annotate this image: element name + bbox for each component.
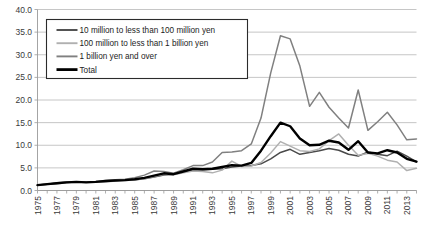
x-tick-label: 1991 [188, 196, 198, 215]
x-tick-label: 2009 [363, 196, 373, 215]
x-tick-label: 2013 [402, 196, 412, 215]
line-chart: 0.05.010.015.020.025.030.035.040.0 19751… [0, 0, 425, 227]
y-tick-label: 0.0 [20, 186, 32, 196]
x-tick-label: 2011 [382, 196, 392, 215]
y-tick-label: 30.0 [15, 50, 32, 60]
legend-label: 1 billion yen and over [80, 52, 158, 61]
y-tick-label: 35.0 [15, 27, 32, 37]
y-tick-label: 15.0 [15, 118, 32, 128]
x-tick-label: 1977 [52, 196, 62, 215]
x-tick-label: 2003 [305, 196, 315, 215]
x-tick-label: 2005 [324, 196, 334, 215]
x-tick-label: 1985 [130, 196, 140, 215]
series-line [38, 123, 417, 185]
x-tick-label: 1979 [71, 196, 81, 215]
x-tick-label: 1981 [91, 196, 101, 215]
x-tick-label: 1997 [246, 196, 256, 215]
legend-label: Total [80, 66, 97, 75]
x-tick-label: 1993 [207, 196, 217, 215]
x-tick-label: 1987 [149, 196, 159, 215]
y-tick-label: 25.0 [15, 72, 32, 82]
legend-label: 10 million to less than 100 million yen [80, 26, 216, 35]
legend-label: 100 million to less than 1 billion yen [80, 39, 209, 48]
x-axis-tick-labels: 1975197719791981198319851987198919911993… [33, 196, 412, 215]
y-tick-label: 40.0 [15, 5, 32, 15]
x-tick-label: 1999 [266, 196, 276, 215]
x-tick-label: 1989 [169, 196, 179, 215]
y-tick-label: 20.0 [15, 95, 32, 105]
chart-legend: 10 million to less than 100 million yen1… [47, 20, 248, 79]
x-tick-label: 2001 [285, 196, 295, 215]
y-axis-tick-labels: 0.05.010.015.020.025.030.035.040.0 [15, 5, 32, 196]
x-tick-label: 1995 [227, 196, 237, 215]
x-tick-label: 1983 [110, 196, 120, 215]
y-tick-label: 10.0 [15, 140, 32, 150]
y-tick-label: 5.0 [20, 163, 32, 173]
x-tick-label: 2007 [343, 196, 353, 215]
x-tick-label: 1975 [33, 196, 43, 215]
chart-canvas: 0.05.010.015.020.025.030.035.040.0 19751… [0, 0, 425, 227]
